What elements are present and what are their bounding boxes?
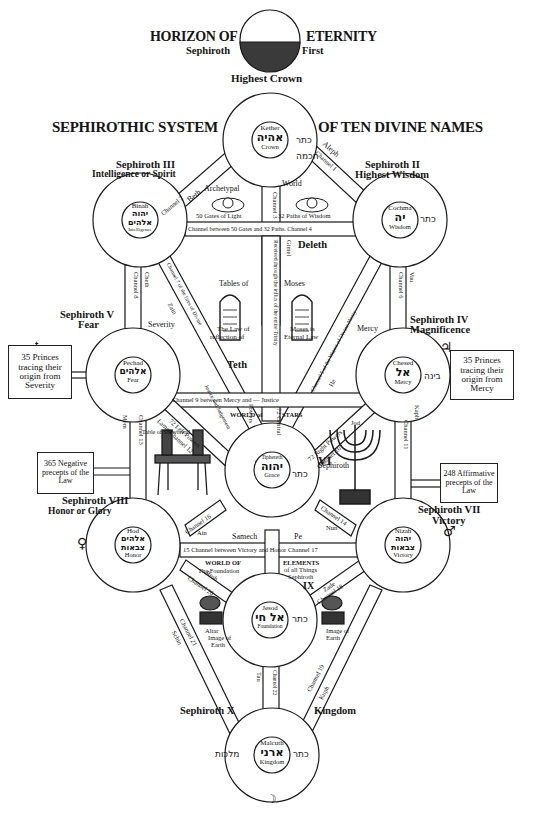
table-shewbread-label: Table of Shewbread [142, 429, 190, 435]
powers-label: Powers [248, 404, 255, 423]
stars-label: STARS [282, 412, 302, 419]
sephira-pechad[interactable]: Pechad אלהים Fear [115, 360, 151, 384]
sephiroth-10-title: Sephiroth X [180, 706, 234, 717]
ring-word-binah: בינה [424, 372, 441, 381]
system-title-left: SEPHIROTHIC SYSTEM [52, 120, 218, 135]
sephira-binah[interactable]: Binah יהוה אלהים Intelligence [122, 203, 158, 232]
sephiroth-4-subtitle: Magnificence [410, 325, 470, 336]
princes-severity-box: 35 Princes tracing their origin from Sev… [8, 345, 72, 399]
highest-crown-label: Highest Crown [231, 73, 302, 84]
altar-3: Earth [211, 642, 225, 649]
channel-4-label: Channel between 50 Gates and 32 Paths. C… [188, 226, 312, 232]
sephira-binah-english: Intelligence [122, 227, 158, 232]
sephira-binah-hebrew: יהוה אלהים [122, 210, 158, 227]
system-title-right: OF TEN DIVINE NAMES [318, 120, 483, 135]
cheth-label: Cheth [144, 272, 151, 288]
gates-light-label: 50 Gates of Light [196, 213, 242, 220]
sephira-hod[interactable]: Hod אלהים צבאות Honor [115, 528, 151, 559]
first-label: First [302, 46, 324, 57]
affirmative-precepts-box: 248 Affirmative precepts of the Law [440, 463, 498, 503]
horizon-right-title: ETERNITY [306, 30, 377, 44]
horizon-left-title: HORIZON OF [150, 30, 238, 44]
sephiroth-10-subtitle: Kingdom [314, 706, 356, 717]
sephira-malchuth-english: Kingdom [254, 759, 290, 766]
kaph-label: Kaph [414, 405, 421, 419]
channel-6-label: Channel 6 [398, 272, 405, 299]
sephira-pechad-english: Fear [115, 377, 151, 384]
channel-8-label: Channel 8 [133, 272, 140, 299]
severity-label: Severity [148, 321, 175, 329]
samech-label: Samech [232, 533, 257, 541]
sephiroth-2-subtitle: Highest Wisdom [355, 170, 429, 181]
sephiroth-7-title: Sephiroth VII [418, 505, 480, 516]
tables-of-label: Tables of [219, 280, 248, 288]
sephiroth-8-subtitle: Honor or Glory [48, 507, 112, 517]
gimel-label: Gimel [286, 240, 293, 256]
paths-wisdom-label: 32 Paths of Wisdom [278, 213, 331, 220]
ring-word-keter-2: כתר [420, 215, 436, 224]
pe-label: Pe [294, 533, 302, 541]
channel-22-label: Channel 22 [272, 670, 278, 695]
sephiroth-8-title: Sephiroth VIII [62, 496, 128, 507]
image-earth-2: Earth [326, 635, 340, 642]
sephira-tiphereth-english: Grace [254, 472, 290, 479]
sephira-hod-hebrew: אלהים צבאות [115, 535, 151, 552]
channel-15-17-label: 15 Channel between Victory and Honor Cha… [183, 547, 318, 554]
central-col-label: 72 Central [276, 408, 283, 435]
sephira-chokmah[interactable]: Cochma יה Wisdom [382, 205, 418, 231]
teth-label: Teth [227, 360, 247, 371]
sephiroth-3-subtitle: Intelligence or Spirit [92, 170, 176, 180]
channel-13-label: Channel 13 [138, 415, 145, 445]
sephira-chokmah-english: Wisdom [382, 224, 418, 231]
sephira-malchuth[interactable]: Malcuth ארני Kingdom [254, 740, 290, 766]
mars-icon: ♂ [443, 524, 456, 538]
mercy-label: Mercy [357, 325, 378, 333]
moon-icon: ☽ [266, 793, 277, 805]
sephira-jesod[interactable]: Jesod אל חי Foundation [252, 605, 288, 630]
world-label: World [282, 180, 302, 188]
sephira-keter[interactable]: Kether אהיה Crown [252, 125, 288, 151]
deleth-label: Deleth [298, 240, 327, 251]
jod-label: Jod [351, 420, 360, 427]
ring-word-keter-3: כתר [292, 470, 308, 479]
channel-11-label: Channel 11 [403, 420, 410, 450]
sephira-chesed-english: Mercy [385, 379, 421, 386]
ain-label: Ain [197, 530, 207, 537]
world-foundation-1: WORLD OF [205, 560, 241, 567]
ring-word-keter-5: כתר [293, 750, 309, 759]
sephira-chesed[interactable]: Chesed אל Mercy [385, 360, 421, 386]
ring-word-keter-4: כתר [292, 615, 308, 624]
sephiroth-5-subtitle: Fear [78, 320, 99, 331]
princes-mercy-box: 35 Princes tracing their origin from Mer… [450, 350, 514, 400]
tau-label: Tau [256, 672, 263, 682]
world-of-label: WORLD of [230, 412, 262, 419]
moses-eternal-1: Moses is [290, 326, 315, 333]
sephira-tiphereth[interactable]: Tiphereth יהוה Grace [254, 455, 290, 479]
archetypal-label: Archetypal [204, 185, 240, 193]
negative-precepts-box: 365 Negative precepts of the Law [37, 452, 94, 494]
sephiroth-first-label: Sephiroth [186, 46, 230, 57]
law-reflection-1: The Law of [217, 326, 250, 333]
sephira-jesod-english: Foundation [252, 624, 288, 630]
ring-word-malchuth: מלכות [215, 750, 239, 759]
ring-word-keter: כתר [296, 136, 312, 145]
influx-label: Received through the influx of the entir… [273, 240, 279, 346]
sephira-keter-english: Crown [252, 144, 288, 151]
sephira-nizah[interactable]: Nizah יהוה צבאות Victory [385, 528, 421, 559]
moses-eternal-2: Eternal Law [284, 334, 318, 341]
moses-label: Moses [284, 280, 305, 288]
sephiroth-9-numeral: IX [303, 581, 314, 591]
sephira-hod-english: Honor [115, 552, 151, 559]
channel-9-label: Channel 9 between Mercy and — Justice [172, 397, 279, 404]
nun-label: Nun [326, 525, 337, 532]
vau-label: Vau [409, 272, 416, 282]
sephira-nizah-hebrew: יהוה צבאות [385, 535, 421, 552]
mem-label: Mem [122, 415, 129, 429]
sephira-nizah-english: Victory [385, 552, 421, 559]
law-reflection-2: reflection of [210, 334, 244, 341]
channel-3-label: Channel 3 [272, 192, 279, 219]
venus-icon: ♀ [77, 536, 87, 550]
